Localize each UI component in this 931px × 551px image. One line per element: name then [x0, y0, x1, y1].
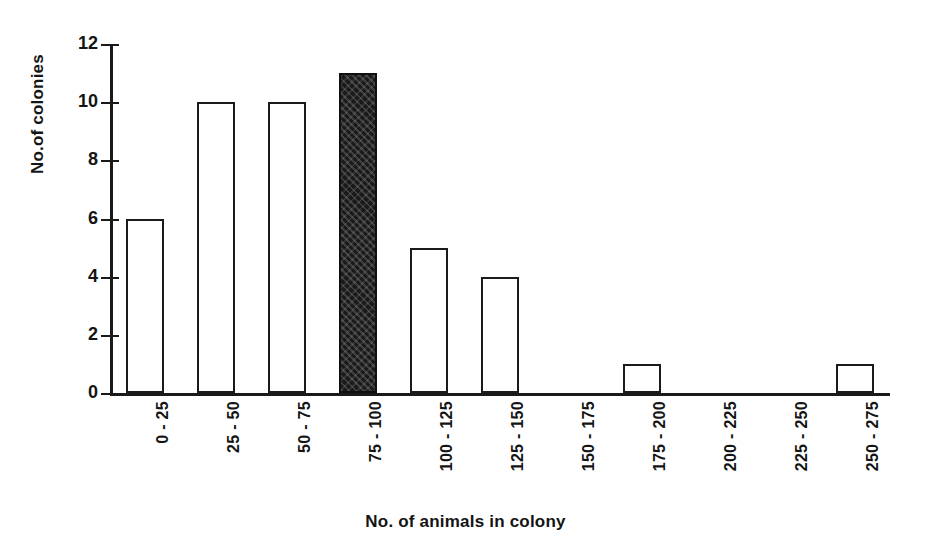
bar[interactable] — [623, 364, 661, 393]
x-axis-title: No. of animals in colony — [0, 512, 931, 532]
bar-slot — [606, 44, 677, 393]
bar[interactable] — [126, 219, 164, 394]
x-axis-line — [110, 393, 890, 396]
x-axis-tick-label-slot: 25 - 50 — [181, 401, 252, 511]
bar[interactable] — [339, 73, 377, 393]
x-axis-tick-label-slot: 100 - 125 — [394, 401, 465, 511]
y-axis-tick-label: 6 — [88, 208, 98, 229]
x-axis-tick-label-slot: 175 - 200 — [606, 401, 677, 511]
y-axis-tick-label: 8 — [88, 149, 98, 170]
y-axis-tick-label: 10 — [78, 91, 98, 112]
x-axis-tick-label: 150 - 175 — [580, 401, 598, 471]
x-axis-tick-label-slot: 150 - 175 — [535, 401, 606, 511]
y-axis-tick-label: 12 — [78, 33, 98, 54]
x-axis-tick-label: 225 - 250 — [793, 401, 811, 471]
x-axis-tick-label: 175 - 200 — [651, 401, 669, 471]
y-axis-tick-label: 4 — [88, 266, 98, 287]
bar-slot — [677, 44, 748, 393]
x-axis-tick-label-slot: 225 - 250 — [748, 401, 819, 511]
x-axis-tick-label-slot: 125 - 150 — [465, 401, 536, 511]
x-axis-tick-label-slot: 0 - 25 — [110, 401, 181, 511]
x-axis-tick-label: 100 - 125 — [438, 401, 456, 471]
x-axis-tick-label: 125 - 150 — [509, 401, 527, 471]
x-axis-tick-label-slot: 50 - 75 — [252, 401, 323, 511]
bar-slot — [110, 44, 181, 393]
y-axis-title: No.of colonies — [28, 0, 50, 174]
bar-series — [110, 44, 890, 393]
x-axis-tick-label: 200 - 225 — [722, 401, 740, 471]
bar-slot — [181, 44, 252, 393]
y-axis-tick-label: 0 — [88, 382, 98, 403]
x-axis-tick-label-slot: 200 - 225 — [677, 401, 748, 511]
bar[interactable] — [410, 248, 448, 393]
plot-area: 024681012 — [110, 44, 890, 393]
bar[interactable] — [481, 277, 519, 393]
bar-slot — [819, 44, 890, 393]
x-axis-tick-label: 0 - 25 — [154, 401, 172, 444]
x-axis-tick-label-slot: 75 - 100 — [323, 401, 394, 511]
bar[interactable] — [197, 102, 235, 393]
x-axis-tick-label-slot: 250 - 275 — [819, 401, 890, 511]
x-axis-tick-label: 75 - 100 — [367, 401, 385, 462]
bar-slot — [535, 44, 606, 393]
bar-slot — [394, 44, 465, 393]
x-axis-tick-label: 25 - 50 — [225, 401, 243, 453]
bar-slot — [323, 44, 394, 393]
x-axis-tick-label: 50 - 75 — [296, 401, 314, 453]
bar-slot — [748, 44, 819, 393]
y-axis-tick-label: 2 — [88, 324, 98, 345]
histogram-figure: No.of colonies 024681012 0 - 2525 - 5050… — [0, 0, 931, 551]
x-axis-tick-label: 250 - 275 — [864, 401, 882, 471]
bar[interactable] — [268, 102, 306, 393]
bar-slot — [252, 44, 323, 393]
bar[interactable] — [836, 364, 874, 393]
bar-slot — [465, 44, 536, 393]
y-axis-tick-mark — [101, 393, 119, 395]
